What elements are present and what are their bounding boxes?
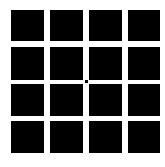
grid-square [11, 47, 44, 80]
grid-square [128, 10, 160, 41]
square-grid [0, 0, 165, 167]
grid-square [89, 121, 122, 153]
grid-square [128, 47, 160, 80]
grid-square [89, 47, 122, 80]
fixation-dot [85, 80, 88, 83]
grid-square [11, 10, 44, 41]
grid-square [50, 84, 83, 116]
grid-square [11, 84, 44, 116]
grid-square [50, 121, 83, 153]
grid-square [11, 121, 44, 153]
grid-square [50, 10, 83, 41]
grid-square [89, 10, 122, 41]
grid-square [128, 84, 160, 116]
grid-square [50, 47, 83, 80]
grid-square [128, 121, 160, 153]
grid-square [89, 84, 122, 116]
